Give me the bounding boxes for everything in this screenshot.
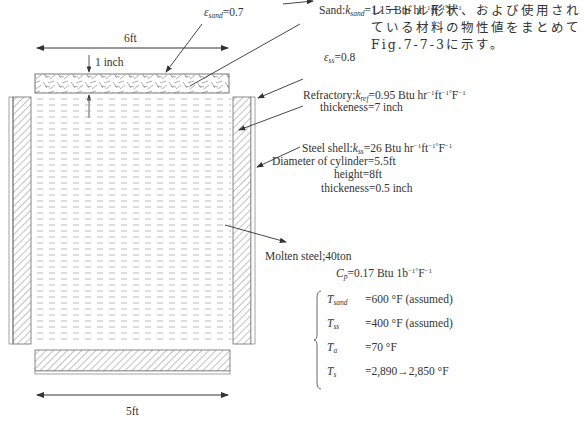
left-wall (9, 97, 31, 344)
temp-symbol: Tss (327, 317, 365, 331)
exp: −1° (442, 89, 452, 97)
temperature-row: Tss=400 °F (assumed) (327, 317, 453, 331)
exp: −1 (425, 267, 432, 275)
exp: −1° (408, 267, 418, 275)
exp: −1 (445, 142, 452, 150)
unit-ft: ft (435, 89, 442, 101)
temp-symbol: Ts (327, 365, 365, 379)
brace-icon (314, 290, 322, 390)
sand-lid (35, 74, 229, 93)
exp: −1° (428, 142, 438, 150)
lid-thickness-label: 1 inch (95, 56, 123, 69)
temp-value: =600 °F (assumed) (365, 293, 453, 305)
molten-steel-label: Molten steel;40ton (265, 250, 352, 263)
height-label: height=8ft (334, 168, 382, 181)
eps-sub: sand (209, 11, 223, 20)
shell-thickness-label: thickeness=0.5 inch (321, 182, 412, 195)
k-sub: sand (350, 9, 364, 18)
sand-prefix: Sand: (319, 4, 345, 16)
emissivity-sand-label: εsand=0.7 (204, 6, 244, 22)
side-paragraph: レードル形状、および使用されている材料の物性値をまとめてFig.7-7-3に示す… (371, 2, 585, 53)
refractory-thickness-label: thickeness=7 inch (320, 101, 403, 114)
molten-steel (33, 97, 231, 344)
diameter-label: Diameter of cylinder=5.5ft (272, 155, 396, 168)
temperature-row: Tsand=600 °F (assumed) (327, 293, 453, 307)
eps-value: =0.8 (334, 51, 355, 63)
shell-prefix: Steel shell: (302, 142, 353, 154)
cp-value: =0.17 Btu 1b (347, 267, 407, 279)
temp-symbol: Ta (327, 341, 365, 355)
cp-symbol: C (336, 267, 344, 279)
temp-value: =70 °F (365, 341, 397, 353)
bottom-refractory (35, 350, 230, 374)
refractory-value: =0.95 Btu hr (369, 89, 428, 101)
shell-value: =26 Btu hr (364, 142, 414, 154)
top-width-label: 6ft (124, 32, 137, 45)
emissivity-ss-label: εss=0.8 (324, 51, 355, 67)
specific-heat-label: Cp=0.17 Btu 1b−1°F−1 (336, 265, 432, 283)
exp: −1 (427, 89, 434, 97)
temp-value: =2,890→2,850 °F (365, 365, 449, 377)
temp-symbol: Tsand (327, 293, 365, 307)
temperature-row: Ta=70 °F (327, 341, 397, 355)
refractory-prefix: Refractory: (303, 89, 355, 101)
temperature-row: Ts=2,890→2,850 °F (327, 365, 449, 379)
temp-value: =400 °F (assumed) (365, 317, 453, 329)
right-wall (233, 97, 255, 344)
ladle-diagram (0, 0, 585, 424)
eps-value: =0.7 (223, 6, 244, 18)
exp: −1 (458, 89, 465, 97)
bottom-width-label: 5ft (126, 405, 139, 418)
